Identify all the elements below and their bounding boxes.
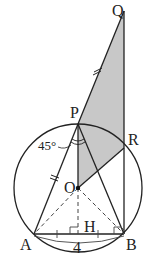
- shaded-region: [78, 11, 124, 188]
- label-A: A: [20, 236, 32, 253]
- label-Q: Q: [112, 2, 124, 19]
- label-R: R: [128, 131, 139, 148]
- label-H: H: [84, 218, 96, 235]
- geometry-figure: Q P R O H A B 45° 4: [0, 0, 150, 265]
- label-B: B: [126, 236, 137, 253]
- right-angle-H: [70, 227, 78, 234]
- length-label: 4: [73, 239, 81, 256]
- label-O: O: [64, 179, 76, 196]
- angle-label: 45°: [38, 138, 56, 153]
- center-dot: [76, 186, 80, 190]
- label-P: P: [70, 104, 79, 121]
